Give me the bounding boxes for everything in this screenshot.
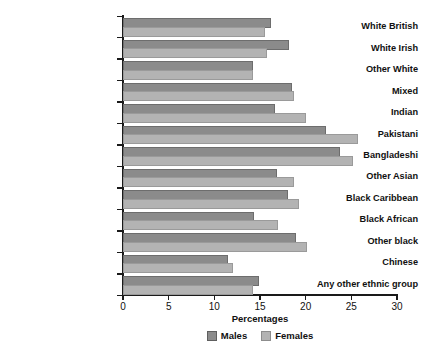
x-axis-tick-label: 25 [336,301,366,313]
x-axis-tick [214,295,216,300]
bar-females [123,220,278,230]
x-axis-tick [122,295,124,300]
x-axis-tick [259,295,261,300]
x-axis-tick-label: 0 [108,301,138,313]
legend-swatch-females-icon [261,331,271,341]
bar-chart: White BritishWhite IrishOther WhiteMixed… [0,0,422,354]
x-axis-tick [305,295,307,300]
x-axis-title: Percentages [123,313,397,324]
x-axis-tick-label: 20 [291,301,321,313]
x-axis-tick [351,295,353,300]
legend-item-males[interactable]: Males [207,330,247,341]
chart-legend: Males Females [123,330,397,341]
legend-item-females[interactable]: Females [261,330,313,341]
bar-females [123,48,267,58]
bar-females [123,156,353,166]
bar-females [123,177,294,187]
bar-females [123,263,233,273]
bar-females [123,285,253,295]
bar-females [123,199,299,209]
bar-females [123,91,294,101]
legend-label-females: Females [275,330,313,341]
legend-swatch-males-icon [207,331,217,341]
bar-females [123,134,358,144]
bar-females [123,113,306,123]
x-axis-tick [168,295,170,300]
legend-label-males: Males [221,330,247,341]
x-axis-tick-label: 5 [154,301,184,313]
x-axis-tick [396,295,398,300]
bar-females [123,70,253,80]
x-axis-tick-label: 10 [199,301,229,313]
x-axis-tick-label: 15 [245,301,275,313]
x-axis-tick-label: 30 [382,301,412,313]
bar-females [123,27,265,37]
bars-layer [123,16,397,295]
bar-females [123,242,307,252]
